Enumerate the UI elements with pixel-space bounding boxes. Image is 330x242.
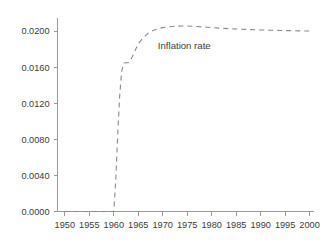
x-tick-label: 1950: [55, 220, 75, 230]
y-axis-ticks: 0.00000.00400.00800.01200.01600.0200: [21, 26, 57, 216]
x-tick-label: 1970: [153, 220, 173, 230]
x-tick-label: 1960: [104, 220, 124, 230]
x-axis-group: 1950195519601965197019751980198519901995…: [55, 212, 320, 230]
x-tick-label: 1975: [177, 220, 197, 230]
x-tick-label: 1980: [201, 220, 221, 230]
y-tick-label: 0.0080: [21, 135, 49, 145]
chart-annotations: Inflation rate: [158, 40, 211, 51]
x-tick-label: 2000: [299, 220, 319, 230]
x-tick-label: 1955: [79, 220, 99, 230]
y-tick-label: 0.0160: [21, 63, 49, 73]
x-tick-label: 1990: [250, 220, 270, 230]
y-tick-label: 0.0200: [21, 26, 49, 36]
y-tick-label: 0.0120: [21, 99, 49, 109]
x-tick-label: 1965: [128, 220, 148, 230]
chart-plot-area: 0.00000.00400.00800.01200.01600.0200 195…: [0, 0, 330, 242]
y-tick-label: 0.0040: [21, 171, 49, 181]
x-tick-label: 1985: [226, 220, 246, 230]
annotation-inflation-rate: Inflation rate: [158, 40, 211, 51]
x-tick-label: 1995: [275, 220, 295, 230]
y-axis-group: 0.00000.00400.00800.01200.01600.0200: [21, 18, 57, 217]
series-line-inflation-rate: [65, 26, 310, 211]
inflation-rate-chart: 0.00000.00400.00800.01200.01600.0200 195…: [0, 0, 330, 242]
y-tick-label: 0.0000: [21, 207, 49, 217]
series-group: [65, 26, 310, 211]
x-axis-ticks: 1950195519601965197019751980198519901995…: [55, 212, 320, 230]
